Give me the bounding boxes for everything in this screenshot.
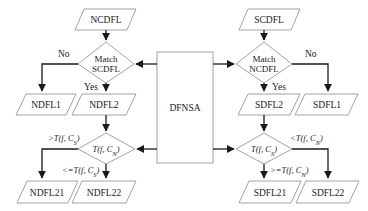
label-yes-right: Yes	[272, 82, 286, 92]
svg-text:Match: Match	[253, 54, 276, 64]
decision-t-cn: T(f, CN)	[78, 133, 135, 164]
node-sdfl2: SDFL2	[238, 94, 300, 115]
label-yes-left: Yes	[84, 82, 98, 92]
label-ge-tcn: >=T(f, CN)	[270, 165, 309, 178]
decision-t-cs: T(f, CS)	[236, 133, 292, 164]
svg-text:SDFL2: SDFL2	[255, 100, 283, 110]
svg-text:SCDFL: SCDFL	[254, 15, 284, 25]
node-scdfl: SCDFL	[239, 9, 300, 30]
svg-text:NDFL2: NDFL2	[89, 100, 119, 110]
decision-match-scdfl: Match SCDFL	[78, 42, 134, 83]
decision-match-ncdfl: Match NCDFL	[236, 42, 292, 83]
svg-text:Match: Match	[95, 54, 118, 64]
node-sdfl22: SDFL22	[296, 181, 359, 203]
node-sdfl21: SDFL21	[239, 181, 301, 203]
svg-text:SDFL21: SDFL21	[254, 188, 287, 198]
svg-text:SCDFL: SCDFL	[92, 64, 120, 74]
flowchart-diagram: DFNSA NCDFL Match SCDFL No Yes NDFL1 NDF…	[0, 0, 368, 211]
label-no-right: No	[305, 49, 317, 59]
node-ndfl21: NDFL21	[17, 181, 78, 203]
svg-text:NDFL22: NDFL22	[87, 188, 122, 198]
node-ndfl2: NDFL2	[72, 94, 136, 115]
svg-text:SDFL22: SDFL22	[312, 188, 345, 198]
node-ndfl22: NDFL22	[72, 181, 136, 203]
svg-text:NDFL1: NDFL1	[31, 100, 61, 110]
node-ncdfl: NCDFL	[75, 9, 136, 30]
node-sdfl1: SDFL1	[295, 94, 358, 115]
svg-text:SDFL1: SDFL1	[313, 100, 341, 110]
node-ndfl1: NDFL1	[16, 94, 76, 115]
label-gt-tcs: >T(f, CS)	[48, 133, 80, 146]
svg-text:NCDFL: NCDFL	[90, 15, 121, 25]
dfnsa-box: DFNSA	[157, 52, 213, 163]
svg-text:NDFL21: NDFL21	[30, 188, 65, 198]
label-lt-tcn: <T(f, CN)	[290, 133, 323, 146]
label-le-tcs: <=T(f, CS)	[62, 165, 100, 178]
label-no-left: No	[58, 49, 70, 59]
dfnsa-label: DFNSA	[169, 103, 200, 113]
svg-text:NCDFL: NCDFL	[249, 64, 279, 74]
